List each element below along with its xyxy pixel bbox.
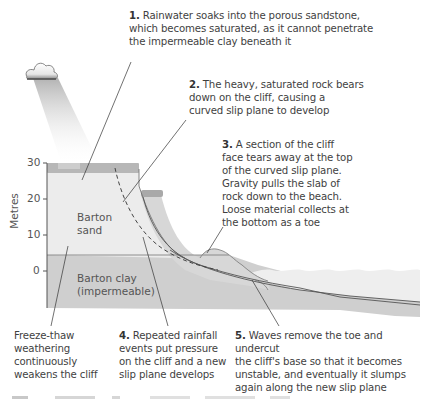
annotation-1: 1. Rainwater soaks into the porous sands… [129, 9, 373, 48]
y-tick-30: 30 [27, 156, 40, 168]
annotation-line: the impermeable clay beneath it [129, 35, 373, 48]
cloud-icon [26, 63, 57, 79]
rain-shaft [33, 78, 100, 165]
clay-label-line: (impermeable) [77, 285, 155, 298]
annotation-line: on the cliff and a new [119, 355, 226, 368]
y-tick-20: 20 [27, 192, 40, 204]
annotation-number: 5. [235, 330, 246, 341]
clay-label-line: Barton clay [77, 272, 155, 285]
annotation-line: Loose material collects at [222, 203, 353, 216]
annotation-line: the bottom as a toe [222, 216, 353, 229]
annotation-number: 2. [189, 79, 200, 90]
annotation-number: 4. [119, 330, 130, 341]
annotation-line: continuously [14, 355, 98, 368]
leader-2 [123, 120, 186, 202]
annotation-line: which becomes saturated, as it cannot pe… [129, 22, 373, 35]
y-tick-10: 10 [27, 228, 40, 240]
layer-label-sand: Barton sand [77, 211, 112, 237]
annotation-line: rock down to the beach. [222, 190, 353, 203]
annotation-line: Rainwater soaks into the porous sandston… [143, 10, 360, 21]
annotation-line: A section of the cliff [236, 139, 334, 150]
y-axis-label: Metres [8, 193, 20, 229]
annotation-line: weathering [14, 342, 98, 355]
annotation-line: Freeze-thaw [14, 329, 98, 342]
annotation-line: unstable, and eventually it slumps [235, 368, 421, 381]
annotation-line: events put pressure [119, 342, 226, 355]
slump-cap [141, 190, 163, 197]
annotation-line: weakens the cliff [14, 368, 98, 381]
y-tick-0: 0 [33, 264, 40, 276]
annotation-line: Repeated rainfall [133, 330, 218, 341]
annotation-3: 3. A section of the cliff face tears awa… [222, 138, 353, 229]
annotation-line: the cliff's base so that it becomes [235, 355, 421, 368]
annotation-line: down on the cliff, causing a [189, 91, 364, 104]
clipped-caption [0, 391, 421, 399]
annotation-line: of the curved slip plane. [222, 164, 353, 177]
leader-1 [82, 62, 131, 180]
annotation-freeze-thaw: Freeze-thaw weathering continuously weak… [14, 329, 98, 381]
annotation-4: 4. Repeated rainfall events put pressure… [119, 329, 226, 381]
annotation-number: 3. [222, 139, 233, 150]
sand-label-line: sand [77, 224, 112, 237]
annotation-line: slip plane develops [119, 368, 226, 381]
annotation-2: 2. The heavy, saturated rock bears down … [189, 78, 364, 117]
annotation-line: face tears away at the top [222, 151, 353, 164]
annotation-5: 5. Waves remove the toe and undercut the… [235, 329, 421, 394]
annotation-number: 1. [129, 10, 140, 21]
annotation-line: Gravity pulls the slab of [222, 177, 353, 190]
annotation-line: curved slip plane to develop [189, 104, 364, 117]
annotation-line: Waves remove the toe and undercut [235, 330, 382, 354]
layer-label-clay: Barton clay (impermeable) [77, 272, 155, 298]
annotation-line: The heavy, saturated rock bears [203, 79, 364, 90]
sand-label-line: Barton [77, 211, 112, 224]
